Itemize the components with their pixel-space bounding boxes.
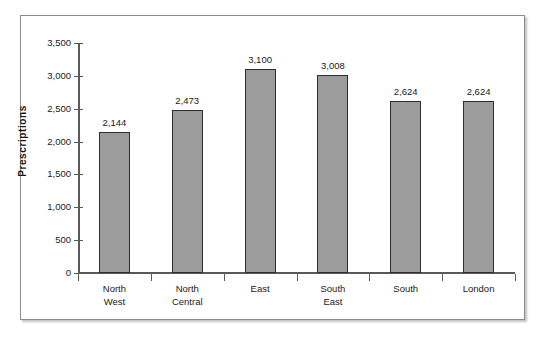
bar: [99, 132, 130, 273]
x-category-label: London: [443, 283, 515, 296]
bar: [172, 110, 203, 273]
y-tick-mark: [74, 240, 83, 241]
y-tick-label: 500: [55, 233, 71, 246]
bar-value-label: 3,100: [230, 54, 290, 66]
x-category-label: North Central: [151, 283, 223, 308]
y-tick-mark: [74, 142, 83, 143]
y-tick-label: 1,500: [47, 167, 71, 180]
y-tick-label: 2,500: [47, 102, 71, 115]
x-tick-mark: [515, 274, 516, 281]
x-tick-mark: [151, 274, 152, 281]
x-category-label: South East: [297, 283, 369, 308]
y-axis-title: Prescriptions: [14, 16, 32, 266]
chart-figure: Prescriptions 05001,0001,5002,0002,5003,…: [20, 15, 525, 320]
y-tick-mark: [74, 43, 83, 44]
x-tick-mark: [442, 274, 443, 281]
y-tick-label: 3,000: [47, 69, 71, 82]
bar-value-label: 3,008: [303, 60, 363, 72]
x-tick-mark: [78, 274, 79, 281]
bar: [317, 75, 348, 273]
y-tick-label: 3,500: [47, 36, 71, 49]
bar: [390, 101, 421, 273]
y-tick-mark: [74, 109, 83, 110]
y-tick-mark: [74, 207, 83, 208]
y-tick-mark: [74, 174, 83, 175]
x-tick-mark: [369, 274, 370, 281]
y-tick-label: 1,000: [47, 200, 71, 213]
bar-value-label: 2,144: [84, 117, 144, 129]
x-tick-mark: [224, 274, 225, 281]
bar-value-label: 2,473: [157, 95, 217, 107]
x-category-label: East: [224, 283, 296, 296]
y-tick-mark: [74, 76, 83, 77]
plot-area: 05001,0001,5002,0002,5003,0003,500 2,144…: [78, 43, 515, 273]
y-tick-label: 2,000: [47, 135, 71, 148]
bar: [463, 101, 494, 273]
x-tick-mark: [297, 274, 298, 281]
x-category-label: South: [370, 283, 442, 296]
bar-value-label: 2,624: [449, 86, 509, 98]
bar-value-label: 2,624: [376, 86, 436, 98]
y-tick-label: 0: [66, 266, 71, 279]
bar: [245, 69, 276, 273]
x-category-label: North West: [78, 283, 150, 308]
